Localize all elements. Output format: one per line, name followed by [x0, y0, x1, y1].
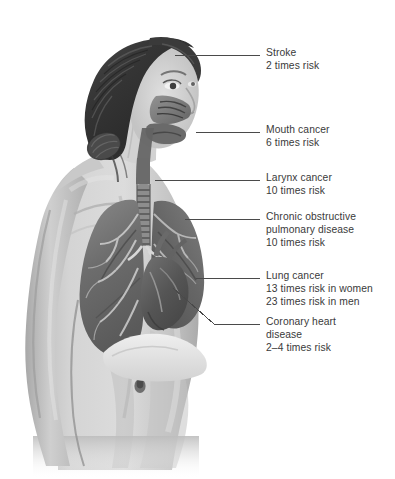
callout-mouth-cancer-title: Mouth cancer: [266, 124, 330, 137]
callout-coronary-heart-disease-title-line1: Coronary heart: [266, 316, 336, 329]
callout-coronary-heart-disease-risk: 2–4 times risk: [266, 342, 336, 355]
callout-copd-risk: 10 times risk: [266, 237, 356, 250]
callout-larynx-cancer-title: Larynx cancer: [266, 172, 332, 185]
callout-stroke-title: Stroke: [266, 47, 319, 60]
callout-coronary-heart-disease: Coronary heart disease 2–4 times risk: [266, 316, 336, 354]
callout-stroke-risk: 2 times risk: [266, 60, 319, 73]
callout-coronary-heart-disease-title-line2: disease: [266, 329, 336, 342]
diagram-canvas: Stroke 2 times risk Mouth cancer 6 times…: [0, 0, 395, 479]
callout-lung-cancer-risk-men: 23 times risk in men: [266, 296, 373, 309]
callout-larynx-cancer-risk: 10 times risk: [266, 185, 332, 198]
callout-stroke: Stroke 2 times risk: [266, 47, 319, 73]
larynx: [136, 158, 150, 184]
callout-mouth-cancer-risk: 6 times risk: [266, 137, 330, 150]
callout-larynx-cancer: Larynx cancer 10 times risk: [266, 172, 332, 198]
callout-copd: Chronic obstructive pulmonary disease 10…: [266, 211, 356, 249]
callout-copd-title-line1: Chronic obstructive: [266, 211, 356, 224]
eye: [170, 83, 176, 89]
callout-lung-cancer-title: Lung cancer: [266, 270, 373, 283]
callout-copd-title-line2: pulmonary disease: [266, 224, 356, 237]
callout-lung-cancer-risk-women: 13 times risk in women: [266, 283, 373, 296]
anatomical-figure-illustration: [0, 0, 260, 479]
callout-mouth-cancer: Mouth cancer 6 times risk: [266, 124, 330, 150]
callout-lung-cancer: Lung cancer 13 times risk in women 23 ti…: [266, 270, 373, 308]
